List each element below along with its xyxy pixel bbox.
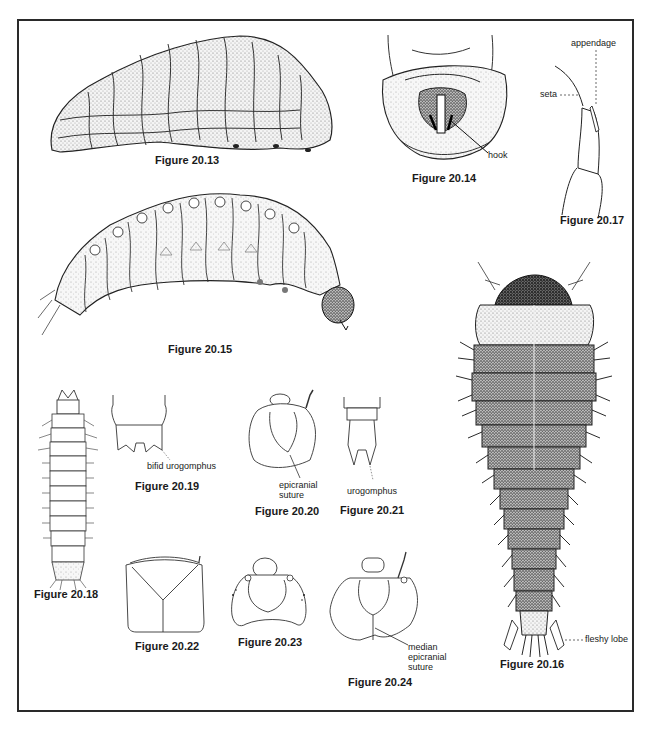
head-median-suture-illustration <box>0 0 653 732</box>
label-suture-24: suture <box>408 662 433 673</box>
caption-20-24: Figure 20.24 <box>348 676 412 688</box>
